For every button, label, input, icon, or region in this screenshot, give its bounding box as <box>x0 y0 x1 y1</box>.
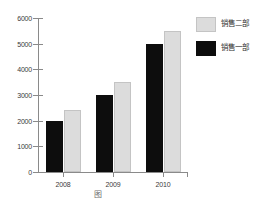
x-tick-2009 <box>113 173 114 177</box>
x-tick-label-2008: 2008 <box>55 181 70 188</box>
y-tick-label-2000: 2000 <box>17 117 32 124</box>
y-tick-label-1000: 1000 <box>17 143 32 150</box>
y-tick-inner-2000 <box>39 121 43 122</box>
legend-item-sales-dept-2: 销售二部 <box>196 12 260 36</box>
bar-2008-series-2 <box>64 110 81 172</box>
y-tick-inner-4000 <box>39 69 43 70</box>
y-tick-label-4000: 4000 <box>17 66 32 73</box>
y-tick-4000 <box>33 69 38 70</box>
y-tick-inner-5000 <box>39 44 43 45</box>
chart-legend: 销售二部 销售一部 <box>196 12 260 60</box>
y-tick-inner-1000 <box>39 146 43 147</box>
legend-label-sales-dept-2: 销售二部 <box>221 20 249 28</box>
y-tick-0 <box>33 172 38 173</box>
x-tick-2010 <box>163 173 164 177</box>
y-tick-label-5000: 5000 <box>17 40 32 47</box>
bar-2008-series-1 <box>46 121 63 172</box>
bar-2010-series-1 <box>146 44 163 172</box>
figure-caption: 图 <box>0 190 195 200</box>
bar-chart-figure: 0100020003000400050006000 200820092010 销… <box>0 0 262 200</box>
bar-2010-series-2 <box>164 31 181 172</box>
legend-swatch-light-gray <box>196 17 216 32</box>
y-tick-5000 <box>33 44 38 45</box>
bar-2009-series-1 <box>96 95 113 172</box>
y-tick-1000 <box>33 146 38 147</box>
x-tick-2008 <box>63 173 64 177</box>
y-tick-inner-6000 <box>39 18 43 19</box>
x-tick-label-2010: 2010 <box>155 181 170 188</box>
y-tick-label-6000: 6000 <box>17 15 32 22</box>
y-tick-inner-3000 <box>39 95 43 96</box>
legend-label-sales-dept-1: 销售一部 <box>221 44 249 52</box>
y-tick-3000 <box>33 95 38 96</box>
plot-area: 0100020003000400050006000 200820092010 <box>38 18 188 173</box>
y-tick-6000 <box>33 18 38 19</box>
bar-2009-series-2 <box>114 82 131 172</box>
y-tick-label-0: 0 <box>28 169 32 176</box>
y-tick-label-3000: 3000 <box>17 92 32 99</box>
legend-swatch-black <box>196 41 216 56</box>
x-tick-label-2009: 2009 <box>105 181 120 188</box>
legend-item-sales-dept-1: 销售一部 <box>196 36 260 60</box>
y-tick-2000 <box>33 121 38 122</box>
y-tick-inner-0 <box>39 172 43 173</box>
x-axis-end-tick <box>187 173 188 177</box>
